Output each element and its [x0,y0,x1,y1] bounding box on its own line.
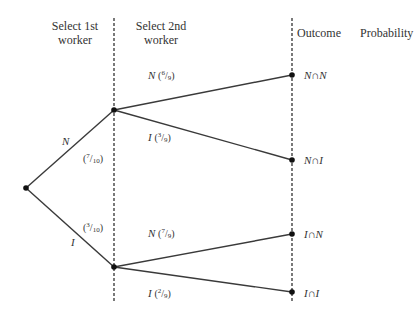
branch-prob-first-I: (3/10) [83,221,103,234]
outcome-NN: N∩N [304,69,327,81]
outcome-IN: I∩N [304,228,323,240]
branch-label-I-N: N (7/9) [148,227,175,240]
outcome-II: I∩I [304,287,319,299]
header-stage2-line2: worker [126,33,196,47]
node-first-N [111,107,117,113]
node-leaf-II [289,289,295,295]
header-stage1-line2: worker [40,33,110,47]
header-probability: Probability [360,26,418,40]
header-select-1st-worker: Select 1st worker [40,19,110,47]
header-stage2-line1: Select 2nd [126,19,196,33]
node-first-I [111,264,117,270]
branch-label-I-I: I (2/9) [148,287,171,300]
header-stage1-line1: Select 1st [40,19,110,33]
branch-label-N-N: N (6/9) [148,69,175,82]
node-leaf-NN [289,72,295,78]
header-select-2nd-worker: Select 2nd worker [126,19,196,47]
node-root [23,185,29,191]
branch-N-N [114,75,292,110]
branch-N-I [114,110,292,160]
header-outcome: Outcome [297,26,347,40]
node-leaf-NI [289,157,295,163]
branch-I-N [114,234,292,267]
branch-I-I [114,267,292,292]
branch-root-N [26,110,114,188]
branch-label-N-I: I (3/9) [148,131,171,144]
outcome-NI: N∩I [304,154,323,166]
branch-label-first-I: I [71,236,75,248]
branch-label-first-N: N [62,135,69,147]
branch-prob-first-N: (7/10) [83,152,103,165]
node-leaf-IN [289,231,295,237]
